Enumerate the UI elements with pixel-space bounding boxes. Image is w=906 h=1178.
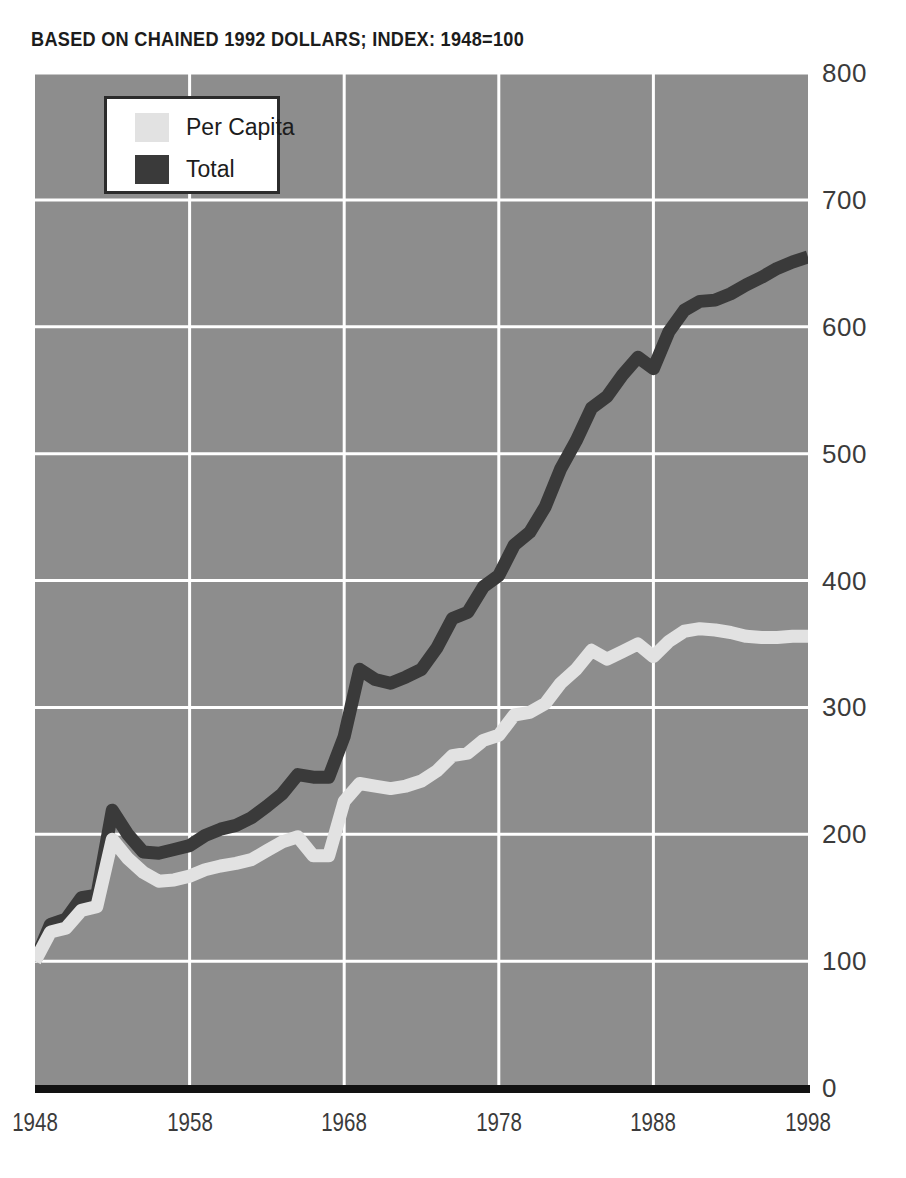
chart-subtitle: BASED ON CHAINED 1992 DOLLARS; INDEX: 19… — [31, 28, 524, 51]
legend-label-total: Total — [186, 156, 235, 183]
x-tick-label: 1978 — [476, 1108, 522, 1137]
legend-swatch-per-capita — [135, 113, 169, 142]
series-line-per-capita — [35, 629, 808, 961]
legend-item-per-capita: Per Capita — [135, 113, 295, 142]
x-tick-label: 1948 — [12, 1108, 58, 1137]
y-tick-label: 400 — [822, 565, 867, 596]
x-tick-label: 1968 — [321, 1108, 367, 1137]
legend-item-total: Total — [135, 155, 235, 184]
x-axis-line — [35, 1085, 810, 1093]
series-line-total — [35, 257, 808, 961]
y-tick-label: 100 — [822, 946, 867, 977]
legend-swatch-total — [135, 155, 169, 184]
y-tick-label: 700 — [822, 184, 867, 215]
data-series-group — [35, 257, 808, 961]
y-tick-label: 300 — [822, 692, 867, 723]
legend-label-per-capita: Per Capita — [186, 114, 295, 141]
chart-lines-svg — [35, 73, 808, 1088]
x-tick-label: 1958 — [167, 1108, 213, 1137]
plot-area — [35, 73, 808, 1088]
y-tick-label: 500 — [822, 438, 867, 469]
chart-figure: · BASED ON CHAINED 1992 DOLLARS; INDEX: … — [0, 0, 906, 1178]
x-tick-label: 1998 — [785, 1108, 831, 1137]
y-tick-label: 800 — [822, 58, 867, 89]
y-tick-label: 200 — [822, 819, 867, 850]
x-tick-label: 1988 — [631, 1108, 677, 1137]
y-tick-label: 0 — [822, 1073, 837, 1104]
chart-legend: Per Capita Total — [104, 96, 280, 194]
horizontal-gridlines — [35, 73, 808, 961]
y-tick-label: 600 — [822, 311, 867, 342]
